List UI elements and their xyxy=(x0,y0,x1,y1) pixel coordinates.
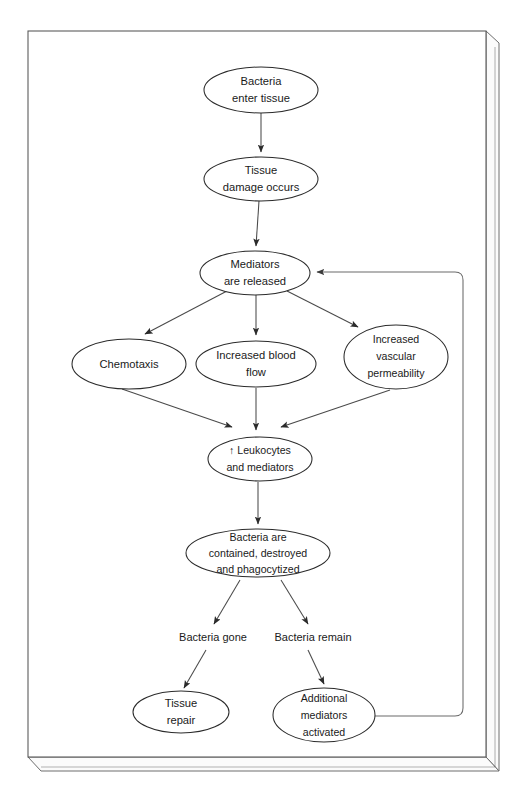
node-label-line: Additional xyxy=(301,692,348,704)
frame-front-face xyxy=(28,31,486,757)
node-tissue-repair[interactable]: Tissue repair xyxy=(133,691,229,733)
node-label-line: are released xyxy=(224,275,286,287)
node-label-line: Increased xyxy=(373,333,420,345)
node-label-line: Bacteria are xyxy=(229,531,286,543)
node-bacteria-enter[interactable]: Bacteria enter tissue xyxy=(204,67,318,113)
node-increased-vascular-permeability[interactable]: Increased vascular permeability xyxy=(344,325,448,389)
inflammation-flowchart: Bacteria enter tissue Tissue damage occu… xyxy=(0,0,514,799)
node-label-line: Increased blood xyxy=(216,349,296,361)
node-increased-blood-flow[interactable]: Increased blood flow xyxy=(196,341,316,387)
node-label-line: vascular xyxy=(376,350,416,362)
node-shape xyxy=(204,67,318,113)
node-label-line: enter tissue xyxy=(232,92,290,104)
node-bacteria-contained[interactable]: Bacteria are contained, destroyed and ph… xyxy=(186,529,330,577)
node-label-line: and mediators xyxy=(226,461,293,473)
node-label-line: Tissue xyxy=(165,697,198,709)
node-mediators-released[interactable]: Mediators are released xyxy=(200,251,310,295)
node-label-line: flow xyxy=(246,366,267,378)
node-label-line: mediators xyxy=(301,709,348,721)
page-frame xyxy=(28,31,499,771)
node-label-line: activated xyxy=(303,726,346,738)
node-chemotaxis[interactable]: Chemotaxis xyxy=(72,339,186,389)
node-label-line: repair xyxy=(167,714,196,726)
node-label-line: ↑ Leukocytes xyxy=(229,444,291,456)
node-label-line: Chemotaxis xyxy=(99,358,158,370)
edge-label-bacteria-gone: Bacteria gone xyxy=(179,631,247,643)
node-label-line: permeability xyxy=(367,367,425,379)
node-label-line: Bacteria xyxy=(240,75,282,87)
flowchart-page: Bacteria enter tissue Tissue damage occu… xyxy=(0,0,514,799)
node-tissue-damage[interactable]: Tissue damage occurs xyxy=(204,157,318,201)
node-label-line: Tissue xyxy=(245,164,278,176)
node-leukocytes-mediators[interactable]: ↑ Leukocytes and mediators xyxy=(208,437,312,481)
node-label-line: contained, destroyed xyxy=(209,547,307,559)
node-label-line: Mediators xyxy=(230,258,280,270)
edge-label-bacteria-remain: Bacteria remain xyxy=(274,631,351,643)
frame-bottom-face xyxy=(28,757,499,771)
node-label-line: damage occurs xyxy=(223,181,300,193)
node-shape xyxy=(196,341,316,387)
node-additional-mediators[interactable]: Additional mediators activated xyxy=(273,688,375,742)
frame-right-face xyxy=(486,31,499,771)
node-label-line: and phagocytized xyxy=(216,563,299,575)
